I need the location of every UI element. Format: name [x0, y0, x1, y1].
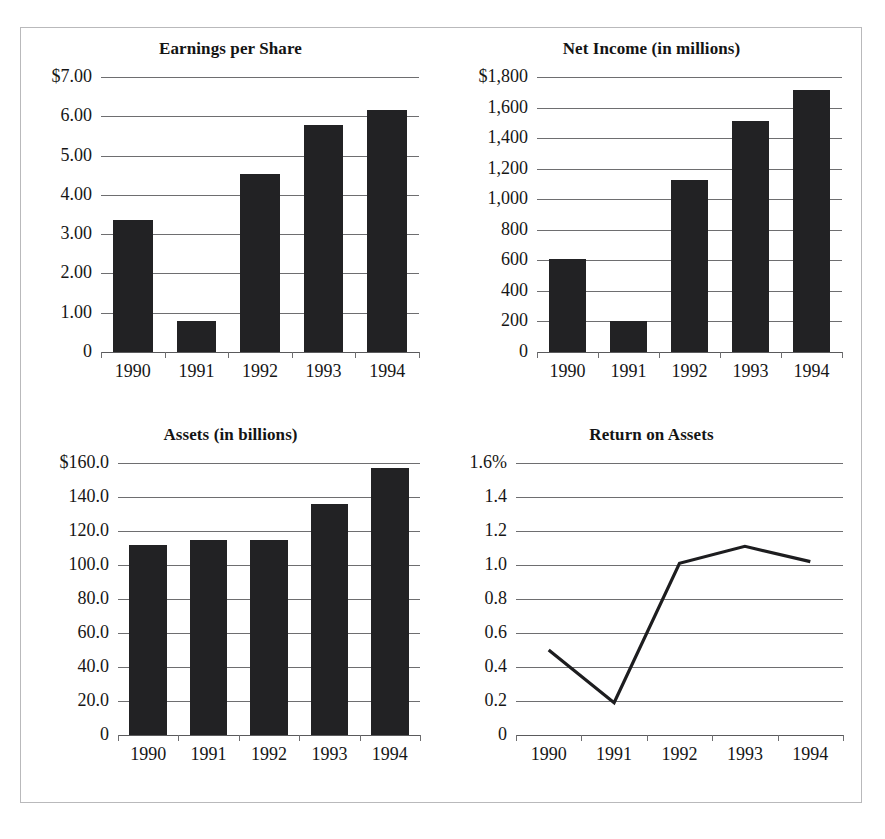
bar-1993: [732, 121, 770, 352]
chart-title-assets: Assets (in billions): [20, 425, 441, 445]
y-axis-tick-label: 0.8: [485, 588, 508, 609]
chart-panel-net-income: Net Income (in millions) $1,8001,6001,40…: [441, 39, 862, 415]
chart-panel-grid: Earnings per Share $7.006.005.004.003.00…: [20, 27, 862, 803]
y-axis-tick-label: 400: [501, 280, 528, 301]
x-axis-tick: [843, 735, 844, 741]
y-axis-tick-label: 1.4: [485, 486, 508, 507]
y-axis-tick-label: 100.0: [69, 554, 110, 575]
plot-area-earnings-per-share: $7.006.005.004.003.002.001.0001990199119…: [101, 77, 419, 352]
x-axis-tick-label: 1992: [662, 744, 698, 765]
x-axis-tick: [659, 352, 660, 358]
y-axis-tick-label: 0: [519, 341, 528, 362]
x-axis-tick: [598, 352, 599, 358]
y-axis-tick-label: 1.2: [485, 520, 508, 541]
chart-panel-return-on-assets: Return on Assets 1.6%1.41.21.00.80.60.40…: [441, 425, 862, 803]
x-axis-tick-label: 1992: [672, 361, 708, 382]
plot-area-return-on-assets: 1.6%1.41.21.00.80.60.40.2019901991199219…: [516, 463, 843, 735]
x-axis-tick: [355, 352, 356, 358]
chart-title-net-income: Net Income (in millions): [441, 39, 862, 59]
x-axis-tick: [537, 352, 538, 358]
bar-1994: [367, 110, 406, 352]
bar-1994: [371, 468, 408, 735]
x-axis-tick: [781, 352, 782, 358]
x-axis-tick-label: 1993: [727, 744, 763, 765]
bar-1992: [671, 180, 709, 352]
bar-1990: [549, 259, 587, 352]
x-axis-tick: [778, 735, 779, 741]
y-axis-tick-label: 200: [501, 311, 528, 332]
chart-title-earnings-per-share: Earnings per Share: [20, 39, 441, 59]
bar-1994: [793, 90, 831, 352]
x-axis-tick: [299, 735, 300, 741]
x-axis-tick-label: 1990: [130, 744, 166, 765]
data-line: [549, 546, 811, 702]
y-axis-tick-label: 2.00: [61, 263, 93, 284]
bar-1992: [240, 174, 279, 352]
y-axis-tick-label: 20.0: [78, 690, 110, 711]
x-axis-tick-label: 1993: [311, 744, 347, 765]
x-axis-tick-label: 1993: [733, 361, 769, 382]
x-axis-tick-label: 1991: [596, 744, 632, 765]
bar-1993: [304, 125, 343, 352]
x-axis-tick-label: 1991: [191, 744, 227, 765]
y-axis-tick-label: 0.2: [485, 690, 508, 711]
x-axis-tick-label: 1992: [251, 744, 287, 765]
y-axis-tick-label: 1,200: [488, 158, 529, 179]
x-axis-tick: [165, 352, 166, 358]
x-axis-tick: [647, 735, 648, 741]
x-axis-tick: [420, 735, 421, 741]
y-axis-tick-label: $1,800: [479, 66, 529, 87]
x-axis-tick-label: 1993: [306, 361, 342, 382]
bar-1990: [129, 545, 166, 735]
y-axis-tick-label: 0: [498, 724, 507, 745]
y-axis-tick-label: 6.00: [61, 105, 93, 126]
chart-panel-assets: Assets (in billions) $160.0140.0120.0100…: [20, 425, 441, 803]
y-axis-tick-label: 1,600: [488, 97, 529, 118]
x-axis-tick: [228, 352, 229, 358]
bar-1991: [190, 540, 227, 736]
y-axis-tick-label: 40.0: [78, 656, 110, 677]
x-axis-tick-label: 1994: [369, 361, 405, 382]
y-axis-tick-label: 0: [83, 341, 92, 362]
plot-area-assets: $160.0140.0120.0100.080.060.040.020.0019…: [118, 463, 420, 735]
x-axis-tick: [118, 735, 119, 741]
gridline: [537, 77, 842, 78]
x-axis-tick: [516, 735, 517, 741]
x-axis-tick: [292, 352, 293, 358]
x-axis-tick-label: 1991: [611, 361, 647, 382]
gridline: [516, 735, 843, 736]
gridline: [101, 352, 419, 353]
y-axis-tick-label: 60.0: [78, 622, 110, 643]
x-axis-tick: [842, 352, 843, 358]
bar-1993: [311, 504, 348, 735]
bar-1991: [177, 321, 216, 352]
x-axis-tick-label: 1990: [115, 361, 151, 382]
x-axis-tick-label: 1994: [792, 744, 828, 765]
y-axis-tick-label: $160.0: [60, 452, 110, 473]
y-axis-tick-label: 120.0: [69, 520, 110, 541]
x-axis-tick: [239, 735, 240, 741]
gridline: [101, 77, 419, 78]
y-axis-tick-label: 1.00: [61, 302, 93, 323]
figure-page: Earnings per Share $7.006.005.004.003.00…: [0, 0, 885, 839]
y-axis-tick-label: 1,400: [488, 127, 529, 148]
y-axis-tick-label: 80.0: [78, 588, 110, 609]
y-axis-tick-label: 800: [501, 219, 528, 240]
x-axis-tick: [360, 735, 361, 741]
x-axis-tick-label: 1994: [372, 744, 408, 765]
gridline: [118, 463, 420, 464]
y-axis-tick-label: 0.6: [485, 622, 508, 643]
y-axis-tick-label: 1.0: [485, 554, 508, 575]
y-axis-tick-label: 0: [100, 724, 109, 745]
chart-title-return-on-assets: Return on Assets: [441, 425, 862, 445]
y-axis-tick-label: 4.00: [61, 184, 93, 205]
x-axis-tick: [712, 735, 713, 741]
line-series-return-on-assets: [516, 463, 843, 735]
x-axis-tick-label: 1990: [550, 361, 586, 382]
y-axis-tick-label: 1.6%: [470, 452, 508, 473]
bar-1990: [113, 220, 152, 352]
x-axis-tick-label: 1991: [178, 361, 214, 382]
gridline: [118, 735, 420, 736]
bar-1991: [610, 321, 648, 352]
x-axis-tick: [178, 735, 179, 741]
